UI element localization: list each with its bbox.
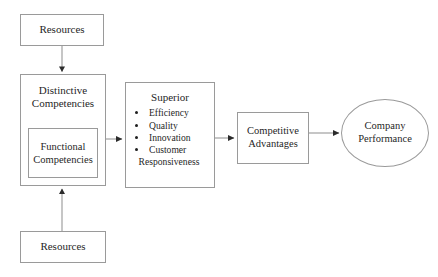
node-functional-competencies-label: Functional Competencies <box>33 140 92 166</box>
node-superior-title: Superior <box>151 91 189 104</box>
node-resources-top-label: Resources <box>39 23 84 36</box>
bullet-icon <box>135 148 138 151</box>
list-item-label: Customer <box>149 144 186 155</box>
node-company-performance-label: Company Performance <box>358 120 412 146</box>
superior-bullet-list: Efficiency Quality Innovation Customer R… <box>121 107 219 168</box>
node-functional-competencies[interactable]: Functional Competencies <box>28 128 98 178</box>
bullet-icon <box>135 136 138 139</box>
list-item-label: Quality <box>149 120 178 132</box>
list-item: Efficiency <box>127 107 215 119</box>
diagram-canvas: Resources Distinctive Competencies Funct… <box>0 0 438 277</box>
list-item: Innovation <box>127 132 215 144</box>
node-distinctive-competencies-label: Distinctive Competencies <box>32 84 94 111</box>
list-item: Customer Responsiveness <box>127 144 215 169</box>
list-item-label: Efficiency <box>149 107 189 119</box>
node-competitive-advantages[interactable]: Competitive Advantages <box>237 112 309 164</box>
node-resources-top[interactable]: Resources <box>20 14 104 46</box>
list-item: Quality <box>127 120 215 132</box>
list-item-label-continuation: Responsiveness <box>127 156 211 168</box>
list-item-label: Innovation <box>149 132 191 144</box>
bullet-icon <box>135 111 138 114</box>
node-resources-bottom[interactable]: Resources <box>20 231 106 263</box>
node-resources-bottom-label: Resources <box>40 240 85 253</box>
node-competitive-advantages-label: Competitive Advantages <box>247 125 299 151</box>
node-company-performance[interactable]: Company Performance <box>341 99 429 167</box>
node-superior[interactable]: Superior Efficiency Quality Innovation C… <box>125 82 215 188</box>
bullet-icon <box>135 124 138 127</box>
